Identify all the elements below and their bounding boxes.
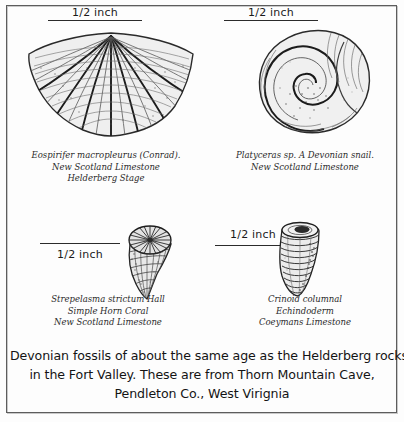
scale-bar-brachiopod-rule [48,20,142,21]
snail-shell-illustration [256,28,374,138]
caption-snail-line-2: New Scotland Limestone [215,162,395,174]
scale-bar-horn-coral-label: 1/2 inch [40,244,120,262]
plate-bottom-caption: Devonian fossils of about the same age a… [10,346,394,403]
figure-crinoid [266,216,334,300]
caption-brachiopod-line-3: Helderberg Stage [16,173,196,185]
figure-brachiopod [25,28,197,140]
plate-bottom-caption-line-3: Pendleton Co., West Virignia [10,384,394,403]
caption-crinoid-line-3: Coeymans Limestone [215,317,395,329]
caption-horn-coral: Strepelasma strictum Hall Simple Horn Co… [18,294,198,329]
caption-horn-coral-line-3: New Scotland Limestone [18,317,198,329]
scale-bar-snail-label: 1/2 inch [224,6,318,20]
caption-crinoid-line-2: Echindoderm [215,306,395,318]
caption-brachiopod-line-1: Eospirifer macropleurus (Conrad). [16,150,196,162]
brachiopod-illustration [25,28,197,140]
horn-coral-illustration [117,224,179,300]
scale-bar-brachiopod: 1/2 inch [48,6,142,21]
crinoid-columnal-illustration [266,216,334,300]
figure-snail [256,28,374,138]
plate-bottom-caption-line-1: Devonian fossils of about the same age a… [10,346,394,365]
caption-crinoid-line-1: Crinoid columnal [215,294,395,306]
caption-brachiopod-line-2: New Scotland Limestone [16,162,196,174]
caption-brachiopod: Eospirifer macropleurus (Conrad). New Sc… [16,150,196,185]
fossil-plate: 1/2 inch 1/2 inch [0,0,404,422]
scale-bar-brachiopod-label: 1/2 inch [48,6,142,20]
figure-horn-coral [117,224,179,300]
caption-snail-line-1: Platyceras sp. A Devonian snail. [215,150,395,162]
caption-horn-coral-line-2: Simple Horn Coral [18,306,198,318]
scale-bar-snail: 1/2 inch [224,6,318,21]
plate-bottom-caption-line-2: in the Fort Valley. These are from Thorn… [10,365,394,384]
caption-crinoid: Crinoid columnal Echindoderm Coeymans Li… [215,294,395,329]
scale-bar-horn-coral: 1/2 inch [40,243,120,262]
caption-snail: Platyceras sp. A Devonian snail. New Sco… [215,150,395,173]
scale-bar-snail-rule [224,20,318,21]
caption-horn-coral-line-1: Strepelasma strictum Hall [18,294,198,306]
